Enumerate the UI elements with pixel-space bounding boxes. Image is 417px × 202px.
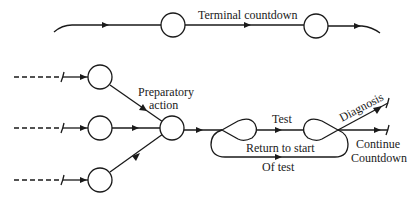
label-countdown: Countdown bbox=[351, 151, 407, 165]
arrow-icon bbox=[275, 127, 282, 133]
label-preparatory: Preparatory bbox=[138, 85, 194, 99]
arrow-icon bbox=[80, 125, 87, 131]
arrow-icon bbox=[132, 153, 140, 161]
label-test: Test bbox=[272, 112, 292, 126]
label-action: action bbox=[149, 98, 178, 112]
arrow-icon bbox=[139, 104, 147, 111]
label-terminal-countdown: Terminal countdown bbox=[198, 8, 297, 22]
arrow-icon bbox=[196, 127, 203, 133]
label-of-test: Of test bbox=[262, 160, 295, 174]
terminal-node-1 bbox=[161, 13, 185, 37]
input-node-top bbox=[88, 65, 112, 89]
input-node-middle bbox=[88, 116, 112, 140]
arrow-icon bbox=[80, 74, 87, 80]
arrow-icon bbox=[80, 177, 87, 183]
arrow-icon bbox=[132, 125, 139, 131]
arrow-icon bbox=[102, 22, 109, 28]
arrow-icon bbox=[244, 22, 251, 28]
arrow-icon bbox=[354, 23, 361, 29]
input-node-bottom bbox=[88, 168, 112, 192]
terminal-countdown-line: Terminal countdown bbox=[54, 8, 380, 38]
terminal-node-2 bbox=[304, 14, 328, 38]
test-loop: Test Return to start Of test Diagnosis C… bbox=[184, 90, 407, 174]
merge-node bbox=[160, 116, 184, 140]
merge-edges: Preparatory action bbox=[110, 85, 194, 172]
arrow-icon bbox=[374, 127, 381, 133]
test-end-node bbox=[304, 119, 338, 140]
test-start-node bbox=[222, 119, 256, 140]
flow-diagram: Terminal countdown Preparatory action bbox=[0, 0, 417, 202]
break-mark-icon bbox=[386, 98, 389, 108]
input-branches bbox=[14, 65, 112, 192]
label-continue: Continue bbox=[356, 137, 400, 151]
label-return-to-start: Return to start bbox=[246, 141, 315, 155]
